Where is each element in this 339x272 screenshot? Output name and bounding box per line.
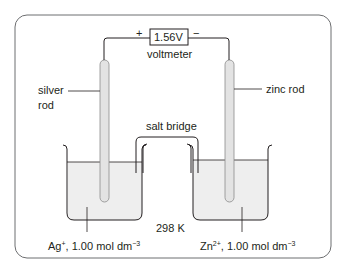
temperature-label: 298 K: [156, 222, 185, 234]
zinc-rod-label: zinc rod: [266, 83, 305, 95]
right-solution-label: Zn2+, 1.00 mol dm−3: [200, 238, 295, 252]
salt-bridge: [136, 137, 198, 173]
silver-rod-label-1: silver: [38, 84, 64, 96]
voltmeter-reading: 1.56V: [154, 31, 183, 43]
silver-rod: [100, 60, 109, 202]
left-solution-label: Ag+, 1.00 mol dm−3: [48, 238, 140, 252]
silver-rod-label-2: rod: [38, 99, 54, 111]
negative-terminal: −: [193, 27, 199, 39]
voltmeter-label: voltmeter: [147, 48, 192, 60]
positive-terminal: +: [136, 27, 142, 39]
wire-right: [188, 38, 229, 60]
wire-left: [104, 38, 150, 60]
zinc-rod: [225, 60, 234, 202]
salt-bridge-label: salt bridge: [146, 120, 197, 132]
